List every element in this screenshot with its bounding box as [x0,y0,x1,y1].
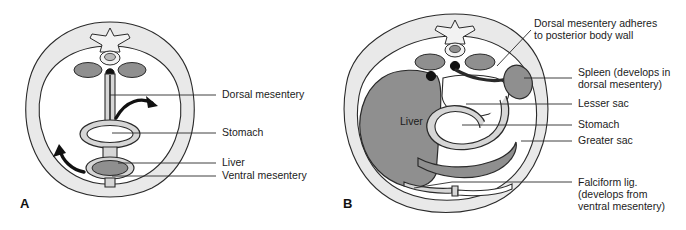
figure-root: Dorsal mesentery Stomach Liver Ventral m… [0,0,686,230]
label-dorsal-mesentery-adheres-b-line2: to posterior body wall [534,29,633,41]
mesonephros-left-a [74,63,102,78]
label-falciform-b: Falciform lig. [578,176,638,188]
label-stomach-b: Stomach [578,118,620,130]
panel-letter-a: A [20,196,30,211]
label-spleen-b: Spleen (develops in [578,66,670,78]
label-spleen-b-line2: dorsal mesentery) [578,78,662,90]
label-ventral-mesentery-a: Ventral mesentery [222,169,307,181]
label-liver-inline-b: Liver [400,115,423,127]
mesonephros-right-a [118,63,146,78]
anatomy-figure-svg: Dorsal mesentery Stomach Liver Ventral m… [0,0,686,230]
label-greater-sac-b: Greater sac [578,134,633,146]
label-liver-a: Liver [222,156,245,168]
falciform-attachment-b [452,186,458,196]
panel-b: Liver Dorsal mesentery adheres to poster… [343,14,670,213]
label-dorsal-mesentery-adheres-b: Dorsal mesentery adheres [534,17,657,29]
panel-a: Dorsal mesentery Stomach Liver Ventral m… [20,22,307,211]
mesonephros-right-b [465,54,495,70]
portal-triad-b [426,71,435,80]
panel-letter-b: B [343,196,352,211]
mesonephros-left-b [415,54,445,70]
label-stomach-a: Stomach [222,126,264,138]
label-dorsal-mesentery-a: Dorsal mesentery [222,88,305,100]
label-falciform-b-line3: ventral mesentery) [578,200,665,212]
spinal-canal-b [450,45,461,52]
label-falciform-b-line2: (develops from [578,188,648,200]
spinal-canal-a [105,53,116,60]
ventral-mesentery-lower-a [105,178,115,187]
stomach-lumen-a [87,126,133,143]
label-lesser-sac-b: Lesser sac [578,97,629,109]
